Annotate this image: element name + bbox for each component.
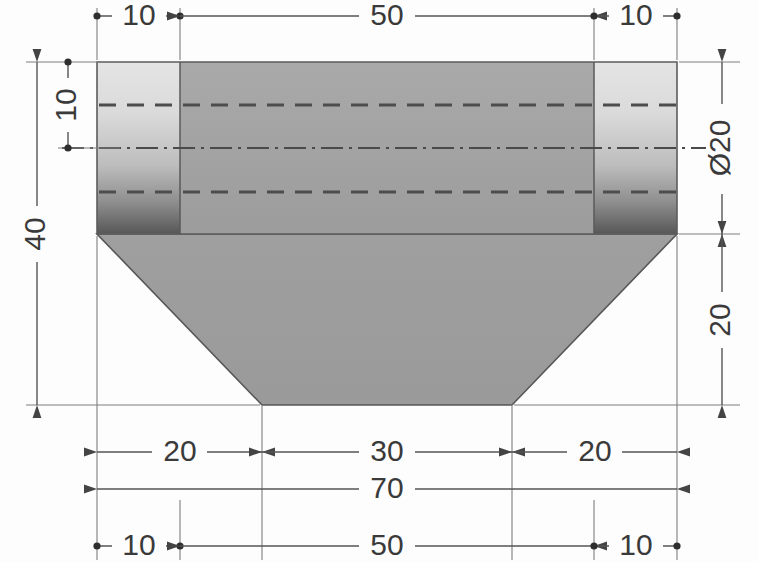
drawing-svg: 10 50 10 40 10 Ø20 20 20 30 20 <box>0 0 759 563</box>
base-trapezoid <box>97 234 677 405</box>
dimlabel-top-right-10: 10 <box>619 0 652 31</box>
dimlabel-bot-right-10: 10 <box>619 528 652 561</box>
dimlabel-bot-left-10: 10 <box>122 528 155 561</box>
dimlabel-top-left-10: 10 <box>122 0 155 31</box>
engineering-drawing-canvas: 10 50 10 40 10 Ø20 20 20 30 20 <box>0 0 759 563</box>
dimlabel-left-10: 10 <box>49 88 82 121</box>
dimlabel-bottom-center-30: 30 <box>370 434 403 467</box>
dimlabel-right-20: 20 <box>703 303 736 336</box>
dimlabel-top-center-50: 50 <box>370 0 403 31</box>
dimlabel-bottom-left-20: 20 <box>163 434 196 467</box>
part-body <box>62 62 712 405</box>
dimlabel-overall-70: 70 <box>370 471 403 504</box>
dimension-column-left: 40 10 <box>18 62 83 405</box>
dimlabel-bot-center-50: 50 <box>370 528 403 561</box>
dimension-row-bottom-inner: 20 30 20 <box>97 434 677 467</box>
dimension-row-bottom-outer: 10 50 10 <box>97 528 677 561</box>
dimension-overall-width: 70 <box>97 471 677 504</box>
dimlabel-left-40: 40 <box>18 217 51 250</box>
dimension-row-top: 10 50 10 <box>97 0 677 31</box>
dimlabel-right-dia20: Ø20 <box>703 120 736 177</box>
dimlabel-bottom-right-20: 20 <box>578 434 611 467</box>
